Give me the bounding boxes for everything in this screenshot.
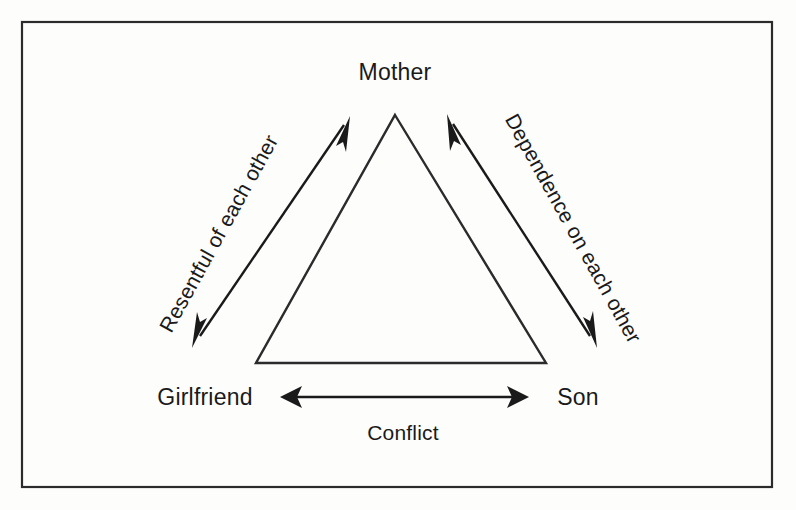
central-triangle bbox=[256, 115, 546, 363]
diagram-canvas: Resentful of each other Dependence on ea… bbox=[0, 0, 796, 510]
node-label-mother: Mother bbox=[359, 59, 432, 85]
edge-mother-son: Dependence on each other bbox=[447, 110, 646, 348]
edge-girlfriend-son: Conflict bbox=[280, 386, 529, 444]
outer-border bbox=[22, 22, 772, 487]
node-label-girlfriend: Girlfriend bbox=[157, 384, 252, 410]
relationship-triangle-diagram: Resentful of each other Dependence on ea… bbox=[0, 0, 796, 510]
node-label-son: Son bbox=[557, 384, 599, 410]
edge-mother-girlfriend: Resentful of each other bbox=[155, 116, 350, 348]
edge-label-conflict: Conflict bbox=[367, 421, 439, 444]
edge-label-resentful: Resentful of each other bbox=[155, 131, 283, 336]
